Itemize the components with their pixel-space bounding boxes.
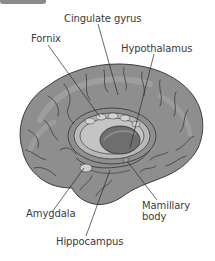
label-hippocampus: Hippocampus — [56, 236, 123, 247]
label-mamillary-line1: Mamillary — [142, 200, 190, 211]
label-mamillary-line2: body — [142, 211, 190, 222]
label-fornix: Fornix — [31, 33, 61, 44]
label-mamillary-body: Mamillary body — [142, 200, 190, 222]
label-amygdala: Amygdala — [26, 208, 75, 219]
label-cingulate-gyrus: Cingulate gyrus — [64, 13, 141, 24]
label-hypothalamus: Hypothalamus — [121, 43, 192, 54]
